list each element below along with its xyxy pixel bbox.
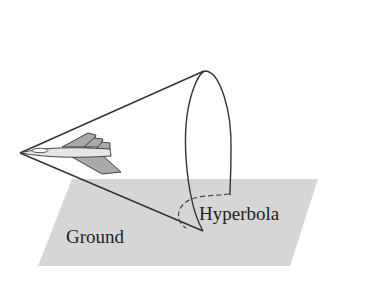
cone-diagram: Hyperbola Ground: [0, 0, 375, 291]
cone-upper-edge: [20, 71, 204, 153]
hyperbola-label: Hyperbola: [199, 203, 280, 224]
ground-label: Ground: [66, 226, 125, 247]
airplane-icon: [20, 133, 121, 174]
